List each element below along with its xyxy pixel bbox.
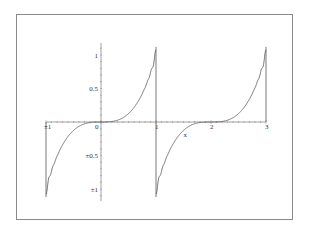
- y-tick-label: 0.5: [89, 85, 98, 93]
- y-tick-label: 1: [95, 52, 99, 60]
- x-tick-label: 0: [95, 123, 99, 131]
- y-tick-label: ±0.5: [85, 152, 98, 160]
- plot-frame: ±1012310.5±0.5±1x: [16, 14, 293, 220]
- x-tick-label: 3: [265, 123, 269, 131]
- tick-labels: ±1012310.5±0.5±1x: [44, 52, 269, 194]
- x-tick-label: ±1: [44, 123, 52, 131]
- x-tick-label: 2: [210, 123, 214, 131]
- line-chart: ±1012310.5±0.5±1x: [17, 15, 294, 221]
- y-tick-label: ±1: [91, 186, 99, 194]
- x-tick-label: 1: [155, 123, 159, 131]
- x-axis-label: x: [184, 131, 188, 139]
